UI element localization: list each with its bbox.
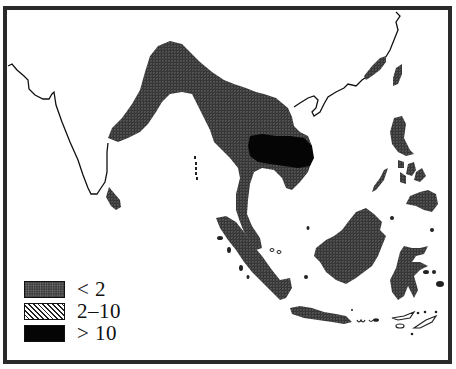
palawan-low	[372, 168, 388, 192]
legend-item-mid: 2–10	[24, 301, 144, 321]
solid-swatch-icon	[24, 325, 65, 342]
stippled-swatch-icon	[24, 281, 65, 298]
mindanao-low	[406, 190, 438, 212]
luzon-low	[390, 116, 414, 156]
legend-item-low: < 2	[24, 279, 144, 299]
legend: < 2 2–10 > 10	[24, 279, 144, 345]
sulawesi-low	[390, 246, 428, 300]
map-frame: < 2 2–10 > 10	[0, 0, 456, 369]
india-coastline	[8, 64, 108, 194]
sumatra-low	[216, 216, 292, 300]
legend-label-high: > 10	[77, 323, 117, 343]
china-coast-low	[364, 56, 386, 80]
java-low	[290, 306, 352, 324]
lesser-sunda-islands	[357, 312, 436, 328]
visayas-low	[398, 160, 426, 184]
legend-label-mid: 2–10	[77, 301, 121, 321]
legend-item-high: > 10	[24, 323, 144, 343]
hatched-swatch-icon	[24, 303, 65, 320]
sri-lanka-low	[106, 187, 121, 210]
taiwan-low	[393, 64, 402, 86]
riau-islands	[270, 249, 281, 254]
legend-label-low: < 2	[77, 279, 106, 299]
borneo-low	[314, 208, 386, 284]
andaman-islands	[194, 156, 198, 180]
